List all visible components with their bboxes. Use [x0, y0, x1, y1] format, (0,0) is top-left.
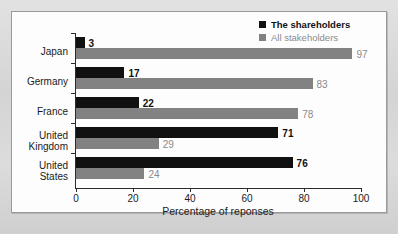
x-tick-mark — [133, 188, 134, 192]
bar-value-label: 76 — [297, 158, 308, 169]
y-tick-mark — [71, 93, 75, 94]
bar-stakeholders — [76, 168, 144, 179]
x-tick-label: 100 — [353, 193, 370, 204]
legend-swatch-gray-icon — [259, 34, 266, 41]
chart-legend: The shareholders All stakeholders — [259, 18, 350, 44]
legend-item-shareholders: The shareholders — [259, 18, 350, 30]
category-label-japan: Japan — [11, 46, 68, 57]
x-tick-label: 80 — [298, 193, 309, 204]
x-tick-label: 0 — [73, 193, 79, 204]
x-tick-mark — [361, 188, 362, 192]
bar-value-label: 71 — [282, 128, 293, 139]
x-tick-label: 60 — [241, 193, 252, 204]
y-tick-mark — [71, 63, 75, 64]
bar-stakeholders — [76, 78, 313, 89]
bar-stakeholders — [76, 48, 352, 59]
bar-stakeholders — [76, 138, 159, 149]
bar-stakeholders — [76, 108, 298, 119]
figure-panel: 020406080100 Japan Germany France United… — [11, 11, 387, 213]
legend-label-stakeholders: All stakeholders — [271, 32, 338, 43]
x-tick-mark — [190, 188, 191, 192]
x-axis-title: Percentage of reponses — [75, 205, 361, 217]
x-tick-label: 40 — [184, 193, 195, 204]
category-label-france: France — [11, 106, 68, 117]
legend-swatch-black-icon — [259, 21, 266, 28]
bar-shareholders — [76, 127, 278, 138]
legend-label-shareholders: The shareholders — [271, 19, 350, 30]
y-tick-mark — [71, 33, 75, 34]
x-tick-label: 20 — [127, 193, 138, 204]
x-tick-mark — [247, 188, 248, 192]
bar-shareholders — [76, 157, 293, 168]
bar-shareholders — [76, 37, 85, 48]
category-label-united-kingdom: United Kingdom — [11, 130, 68, 152]
y-tick-mark — [71, 123, 75, 124]
bar-value-label: 78 — [302, 109, 313, 120]
plot-area: 020406080100 Japan Germany France United… — [12, 12, 386, 212]
x-tick-mark — [304, 188, 305, 192]
y-tick-mark — [71, 153, 75, 154]
legend-item-stakeholders: All stakeholders — [259, 31, 350, 43]
bar-value-label: 83 — [317, 79, 328, 90]
category-label-united-states: United States — [11, 160, 68, 182]
bar-value-label: 97 — [356, 49, 367, 60]
bar-value-label: 29 — [163, 139, 174, 150]
x-axis-line — [75, 188, 361, 189]
category-label-germany: Germany — [11, 76, 68, 87]
bar-value-label: 24 — [148, 169, 159, 180]
bar-shareholders — [76, 67, 124, 78]
x-tick-mark — [76, 188, 77, 192]
bar-shareholders — [76, 97, 139, 108]
